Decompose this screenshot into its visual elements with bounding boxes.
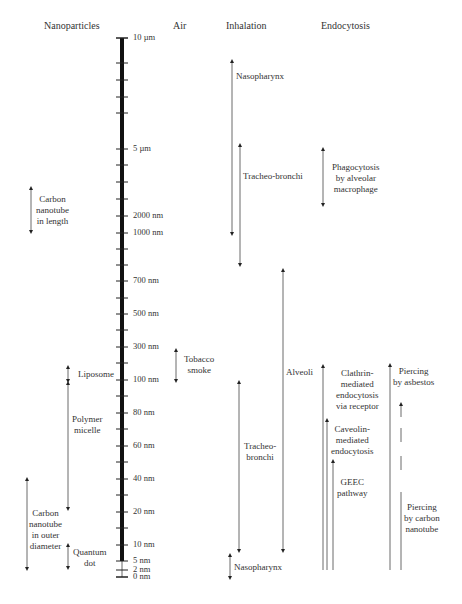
label-piercing-asbestos: Piercing by asbestos — [393, 366, 434, 388]
label-tracheo-bronchi-bottom: Tracheo- bronchi — [244, 441, 276, 463]
size-scale-diagram — [0, 0, 462, 604]
label-tobacco-smoke: Tobacco smoke — [184, 354, 214, 376]
label-quantum-dot: Quantum dot — [73, 547, 107, 569]
scale-tick-label: 700 nm — [133, 276, 159, 285]
inhalation-arrows — [230, 61, 283, 578]
scale-tick-label: 300 nm — [133, 342, 159, 351]
label-piercing-carbon-nanotube: Piercing by carbon nanotube — [404, 502, 440, 535]
scale-tick-label: 500 nm — [133, 309, 159, 318]
label-alveoli: Alveoli — [286, 367, 313, 378]
label-tracheo-bronchi-top: Tracheo-bronchi — [243, 171, 303, 182]
scale-tick-label: 0 nm — [133, 572, 150, 581]
scale-tick-label: 60 nm — [133, 441, 155, 450]
scale-tick-label: 40 nm — [133, 474, 155, 483]
label-liposome: Liposome — [78, 369, 114, 380]
label-geec: GEEC pathway — [337, 477, 368, 499]
scale-bar — [116, 38, 128, 577]
scale-tick-label: 10 µm — [133, 33, 155, 42]
scale-tick-label: 5 µm — [133, 144, 151, 153]
label-caveolin: Caveolin- mediated endocytosis — [331, 424, 374, 457]
scale-tick-label: 1000 nm — [133, 228, 163, 237]
endocytosis-arrows — [323, 149, 401, 570]
label-polymer-micelle: Polymer micelle — [72, 414, 103, 436]
scale-tick-label: 80 nm — [133, 408, 155, 417]
label-nasopharynx-bottom: Nasopharynx — [234, 562, 282, 573]
label-phagocytosis: Phagocytosis by alveolar macrophage — [332, 162, 380, 195]
label-clathrin: Clathrin- mediated endocytosis via recep… — [336, 368, 379, 412]
label-carbon-nanotube-length: Carbon nanotube in length — [36, 194, 69, 227]
scale-tick-label: 10 nm — [133, 540, 155, 549]
label-nasopharynx-top: Nasopharynx — [236, 71, 284, 82]
label-carbon-nanotube-diameter: Carbon nanotube in outer diameter — [29, 508, 62, 552]
scale-tick-label: 100 nm — [133, 375, 159, 384]
scale-tick-label: 20 nm — [133, 507, 155, 516]
scale-tick-label: 2000 nm — [133, 211, 163, 220]
